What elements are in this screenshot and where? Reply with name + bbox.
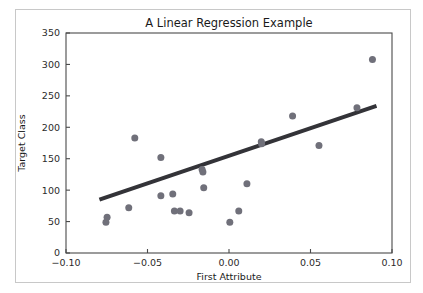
scatter-point [104, 214, 111, 221]
scatter-point [200, 184, 207, 191]
linear-regression-scatter-chart: 050100150200250300350 −0.10−0.050.000.05… [0, 0, 423, 293]
scatter-points-group [102, 56, 376, 226]
x-tick-label: 0.00 [218, 257, 239, 268]
scatter-point [226, 219, 233, 226]
scatter-point [169, 190, 176, 197]
y-tick-label: 50 [48, 216, 60, 227]
scatter-point [235, 207, 242, 214]
scatter-point [186, 209, 193, 216]
scatter-point [369, 56, 376, 63]
y-tick-label: 300 [42, 59, 60, 70]
x-tick-label: 0.10 [381, 257, 402, 268]
regression-line-group [99, 106, 376, 200]
x-tick-label: −0.05 [133, 257, 162, 268]
scatter-point [199, 168, 206, 175]
x-axis-tickmarks [66, 249, 392, 253]
regression-line [99, 106, 376, 200]
x-axis-title: First Attribute [197, 271, 262, 282]
y-tick-label: 150 [42, 153, 60, 164]
scatter-point [157, 154, 164, 161]
scatter-point [258, 140, 265, 147]
x-tick-label: 0.05 [300, 257, 321, 268]
x-tick-label: −0.10 [51, 257, 80, 268]
figure-canvas: 050100150200250300350 −0.10−0.050.000.05… [0, 0, 423, 293]
scatter-point [243, 180, 250, 187]
scatter-point [353, 104, 360, 111]
chart-title: A Linear Regression Example [145, 16, 312, 30]
y-tick-label: 100 [42, 185, 60, 196]
y-tick-label: 250 [42, 90, 60, 101]
y-tick-label: 350 [42, 27, 60, 38]
scatter-point [157, 192, 164, 199]
scatter-point [125, 204, 132, 211]
y-axis-tickmarks [66, 33, 70, 253]
x-axis-tick-labels: −0.10−0.050.000.050.10 [51, 257, 402, 268]
scatter-point [177, 207, 184, 214]
y-axis-title: Target Class [16, 114, 27, 172]
scatter-point [315, 142, 322, 149]
scatter-point [131, 134, 138, 141]
y-tick-label: 200 [42, 122, 60, 133]
y-axis-tick-labels: 050100150200250300350 [42, 27, 60, 258]
scatter-point [289, 112, 296, 119]
